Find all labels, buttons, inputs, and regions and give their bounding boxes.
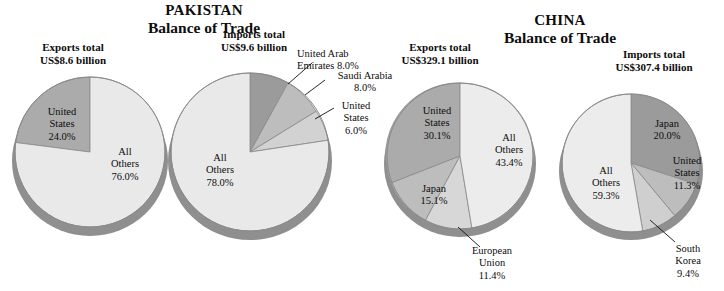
pakistan-title-line1: PAKISTAN xyxy=(124,2,284,19)
leader-cn-imports-south-korea xyxy=(648,218,680,244)
china-imports-total-line2: US$307.4 billion xyxy=(584,61,724,74)
china-title-line1: CHINA xyxy=(475,12,645,29)
label-cn-exports-all-others: AllOthers43.4% xyxy=(476,132,542,169)
figure-canvas: PAKISTAN Balance of Trade CHINA Balance … xyxy=(0,0,724,291)
pakistan-imports-total-line1: Imports total xyxy=(189,28,319,41)
china-exports-total-line1: Exports total xyxy=(370,41,510,54)
label-cn-imports-united-states: UnitedStates11.3% xyxy=(656,155,718,192)
label-pk-imports-all-others: AllOthers78.0% xyxy=(185,152,255,189)
label-cn-exports-united-states: UnitedStates30.1% xyxy=(404,105,470,142)
label-cn-exports-european-union: EuropeanUnion11.4% xyxy=(452,245,532,282)
china-exports-total-line2: US$329.1 billion xyxy=(370,54,510,67)
label-pk-exports-all-others: AllOthers76.0% xyxy=(90,146,160,183)
label-cn-imports-south-korea: SouthKorea9.4% xyxy=(655,243,721,280)
china-exports-total: Exports total US$329.1 billion xyxy=(370,41,510,66)
label-cn-imports-all-others: AllOthers59.3% xyxy=(573,165,639,202)
pakistan-exports-total-line1: Exports total xyxy=(8,41,138,54)
china-imports-total: Imports total US$307.4 billion xyxy=(584,48,724,73)
label-pk-imports-united-states: UnitedStates6.0% xyxy=(325,100,387,137)
china-imports-total-line1: Imports total xyxy=(584,48,724,61)
label-cn-exports-japan: Japan15.1% xyxy=(404,183,464,208)
label-pk-exports-united-states: UnitedStates24.0% xyxy=(26,106,98,143)
label-cn-imports-japan: Japan20.0% xyxy=(637,118,697,143)
